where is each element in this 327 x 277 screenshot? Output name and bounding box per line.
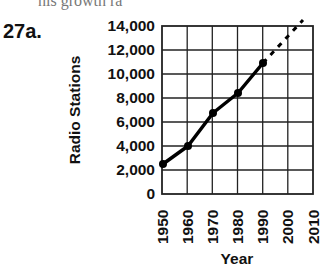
grid [162, 26, 313, 194]
x-tick: 1970 [205, 210, 221, 244]
x-tick: 2010 [306, 210, 322, 244]
x-axis-label: Year [221, 250, 254, 268]
x-tick: 1990 [255, 210, 271, 244]
x-tick: 2000 [280, 210, 296, 244]
x-tick: 1950 [155, 210, 171, 244]
x-tick: 1980 [230, 210, 246, 244]
x-tick: 1960 [180, 210, 196, 244]
